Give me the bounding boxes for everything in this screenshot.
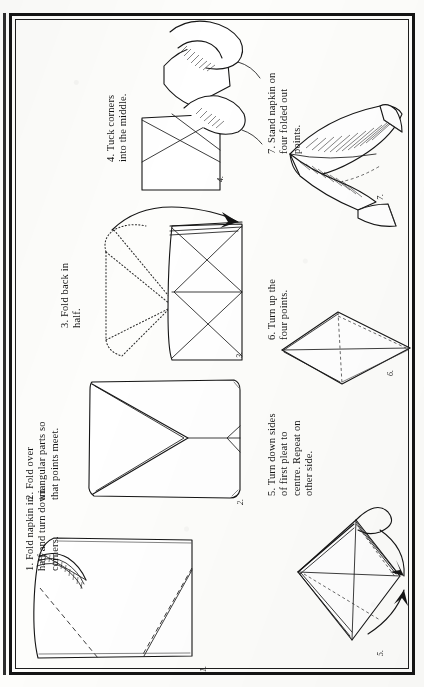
figure-number-4: 4. [216,176,225,182]
figure-step-2 [84,374,246,504]
figure-step-4 [134,22,264,190]
caption-step-1: 1. Fold napkin in half and turn down cor… [24,489,61,571]
figure-number-6: 6. [386,370,395,376]
caption-step-4: 4. Tuck corners into the middle. [105,93,130,162]
figure-step-6 [276,306,416,388]
caption-step-3: 3. Fold back in half. [59,263,84,328]
figure-number-3: 3. [235,352,244,358]
caption-step-5: 5. Turn down sides of first pleat to cen… [266,413,316,496]
figure-number-5: 5. [376,650,385,656]
caption-step-7: 7. Stand napkin on four folded out point… [266,73,303,154]
figure-step-7 [284,100,416,236]
figure-number-2: 2. [236,499,245,505]
caption-step-6: 6. Turn up the four points. [266,279,291,340]
figure-number-1: 1. [199,666,208,672]
figure-step-5 [284,494,412,658]
page-spine-rule [3,13,6,675]
napkin-folding-instruction-page: 1. 1. Fold napkin in half and turn down … [0,0,424,687]
figure-step-3 [96,200,246,368]
figure-number-7: 7. [376,194,385,200]
caption-step-2: 2. Fold over triangular parts so that po… [24,421,61,500]
